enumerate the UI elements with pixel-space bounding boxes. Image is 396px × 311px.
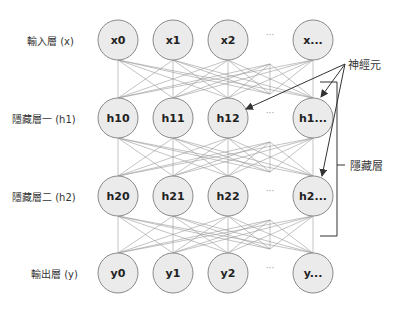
connection [118, 64, 270, 98]
connection [270, 142, 313, 176]
layer-label-input: 輸入層 (x) [27, 33, 74, 48]
neuron-x1: x1 [153, 20, 193, 60]
neuron-x0: x0 [98, 20, 138, 60]
connection [118, 220, 270, 253]
neuron-y...: y... [293, 253, 333, 293]
svg-text:h22: h22 [216, 190, 239, 203]
svg-text:x1: x1 [166, 34, 181, 47]
svg-text:h1...: h1... [299, 112, 327, 125]
neuron-x2: x2 [208, 20, 248, 60]
svg-text:y1: y1 [166, 267, 181, 280]
neuron-x...: x... [293, 20, 333, 60]
ellipsis: ··· [266, 186, 275, 196]
connection [173, 142, 270, 176]
neuron-y2: y2 [208, 253, 248, 293]
annotation-arrows [246, 64, 345, 236]
neuron-y1: y1 [153, 253, 193, 293]
layer-label-output: 輸出層 (y) [31, 266, 78, 281]
ellipsis: ··· [266, 263, 275, 273]
svg-text:x0: x0 [111, 34, 126, 47]
svg-text:h2...: h2... [299, 190, 327, 203]
svg-text:h11: h11 [161, 112, 184, 125]
connection [173, 60, 270, 94]
nodes: x0x1x2x...···h10h11h12h1...···h20h21h22h… [98, 20, 333, 293]
neuron-h11: h11 [153, 98, 193, 138]
connection [173, 64, 270, 98]
ellipsis: ··· [266, 30, 275, 40]
connection [270, 138, 313, 172]
layer-label-hidden2: 隱藏層二 (h2) [12, 189, 76, 204]
connection [118, 216, 270, 249]
svg-text:x...: x... [303, 34, 323, 47]
neuron-y0: y0 [98, 253, 138, 293]
ellipsis: ··· [266, 108, 275, 118]
connection [270, 216, 313, 249]
connection [270, 220, 313, 253]
svg-text:x2: x2 [221, 34, 236, 47]
svg-text:y0: y0 [111, 267, 126, 280]
annotation-neuron: 神經元 [348, 56, 381, 72]
neuron-h10: h10 [98, 98, 138, 138]
annotation-hidden-layers: 隱藏層 [350, 157, 383, 173]
neuron-h21: h21 [153, 176, 193, 216]
neuron-h12: h12 [208, 98, 248, 138]
svg-text:h12: h12 [216, 112, 239, 125]
connection [173, 138, 270, 172]
connections [118, 60, 313, 253]
svg-text:y2: y2 [221, 267, 236, 280]
neuron-h22: h22 [208, 176, 248, 216]
svg-text:h10: h10 [106, 112, 129, 125]
connection [173, 220, 270, 253]
connection [118, 60, 270, 94]
neuron-h20: h20 [98, 176, 138, 216]
connection [118, 142, 270, 176]
neuron-h1...: h1... [293, 98, 333, 138]
connection [270, 60, 313, 94]
svg-text:h20: h20 [106, 190, 129, 203]
neuron-h2...: h2... [293, 176, 333, 216]
layer-label-hidden1: 隱藏層一 (h1) [12, 111, 76, 126]
connection [173, 216, 270, 249]
connection [118, 138, 270, 172]
svg-text:h21: h21 [161, 190, 184, 203]
svg-text:y...: y... [304, 267, 323, 280]
